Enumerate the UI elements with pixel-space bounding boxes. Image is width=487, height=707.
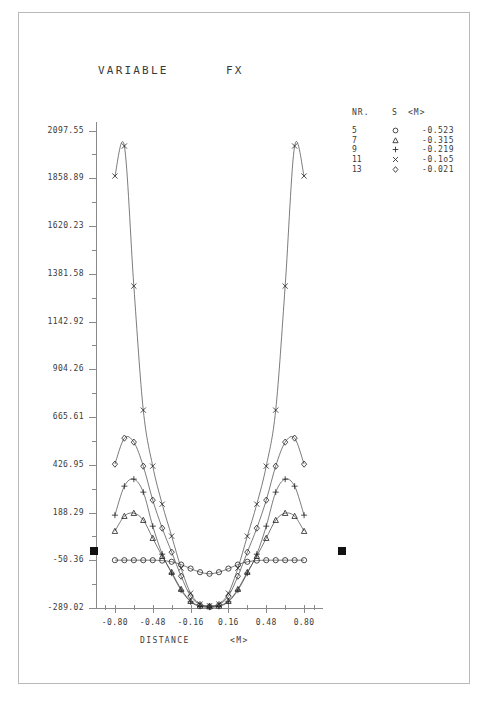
series-11 xyxy=(112,142,306,609)
chart-page: VARIABLE FX NR. S <M> 5-0.5237-0.3159-0.… xyxy=(0,0,487,707)
series-7 xyxy=(112,510,307,609)
series-9 xyxy=(112,476,307,610)
chart-curves xyxy=(0,0,487,707)
series-5 xyxy=(112,558,306,577)
